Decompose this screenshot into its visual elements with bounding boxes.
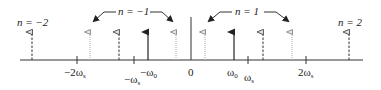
label-n-plus-2: n = 2 bbox=[338, 16, 362, 28]
curved-arrow-icon bbox=[150, 12, 172, 21]
axis-label-w0: ω0 bbox=[227, 66, 238, 80]
curved-arrow-icon bbox=[94, 12, 116, 21]
curved-arrow-icon bbox=[209, 12, 232, 21]
spectrum-diagram: n = −2 n = −1 n = 1 n = 2 −2ωs −ωs −ω0 0… bbox=[0, 0, 381, 90]
axis-label-minus-2ws: −2ωs bbox=[64, 66, 86, 80]
axis-label-zero: 0 bbox=[188, 66, 194, 78]
axis-label-2ws: 2ωs bbox=[298, 66, 314, 80]
axis-label-ws: ωs bbox=[244, 71, 254, 85]
label-n-minus-1: n = −1 bbox=[118, 5, 149, 17]
curved-arrow-icon bbox=[264, 12, 288, 21]
label-n-minus-2: n = −2 bbox=[17, 16, 49, 28]
axis-label-minus-w0: −ω0 bbox=[140, 66, 157, 80]
axis-label-minus-ws: −ωs bbox=[124, 73, 140, 87]
label-n-plus-1: n = 1 bbox=[235, 5, 259, 17]
